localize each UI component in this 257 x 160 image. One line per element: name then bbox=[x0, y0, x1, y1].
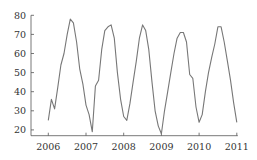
line-chart: 20304050607080 200620072008200920102011 bbox=[0, 0, 257, 160]
y-axis: 20304050607080 bbox=[14, 10, 34, 136]
x-tick-label: 2007 bbox=[74, 141, 98, 152]
series-line bbox=[48, 19, 237, 134]
y-tick-label: 60 bbox=[14, 48, 26, 59]
x-tick-label: 2010 bbox=[187, 141, 211, 152]
x-tick-label: 2009 bbox=[149, 141, 173, 152]
x-tick-label: 2006 bbox=[36, 141, 60, 152]
y-tick-label: 50 bbox=[14, 67, 26, 78]
y-tick-label: 80 bbox=[14, 10, 26, 21]
y-tick-label: 30 bbox=[14, 105, 26, 116]
x-tick-label: 2011 bbox=[225, 141, 249, 152]
x-axis: 200620072008200920102011 bbox=[31, 133, 249, 152]
plot-area bbox=[48, 19, 237, 134]
y-tick-label: 70 bbox=[14, 29, 26, 40]
y-tick-label: 20 bbox=[14, 124, 26, 135]
y-tick-label: 40 bbox=[14, 86, 26, 97]
x-tick-label: 2008 bbox=[112, 141, 136, 152]
